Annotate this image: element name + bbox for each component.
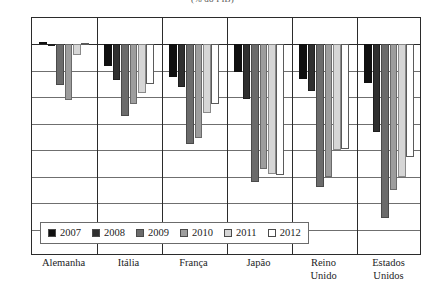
legend-label: 2008 [104, 228, 125, 239]
legend-item-2008[interactable]: 2008 [92, 228, 125, 239]
chart-legend: 200720082009201020112012 [40, 222, 309, 244]
bar-reino-unido-2008 [308, 44, 316, 90]
bar-japão-2009 [251, 44, 259, 182]
bar-estados-unidos-2012 [406, 44, 414, 156]
bar-japão-2008 [243, 44, 251, 98]
bar-alemanha-2012 [81, 43, 89, 45]
bar-japão-2012 [276, 44, 284, 175]
bar-estados-unidos-2007 [364, 44, 372, 82]
bar-reino-unido-2009 [316, 44, 324, 187]
x-label-line: Unido [291, 270, 356, 283]
bar-itália-2012 [146, 44, 154, 84]
bar-estados-unidos-2011 [398, 44, 406, 176]
x-label-line: Unidos [356, 270, 421, 283]
bar-alemanha-2010 [65, 44, 73, 100]
legend-swatch-icon [180, 229, 188, 237]
bar-frança-2007 [169, 44, 177, 77]
x-label-estados-unidos: EstadosUnidos [356, 257, 421, 282]
bar-frança-2010 [195, 44, 203, 138]
x-label-line: Alemanha [31, 257, 96, 270]
legend-swatch-icon [92, 229, 100, 237]
bar-reino-unido-2011 [333, 44, 341, 150]
bar-itália-2008 [113, 44, 121, 80]
bar-frança-2011 [203, 44, 211, 113]
x-axis-labels: AlemanhaItáliaFrançaJapãoReinoUnidoEstad… [31, 257, 421, 293]
x-label-line: Itália [96, 257, 161, 270]
legend-item-2007[interactable]: 2007 [48, 228, 81, 239]
legend-item-2009[interactable]: 2009 [136, 228, 169, 239]
legend-label: 2012 [280, 228, 301, 239]
legend-swatch-icon [48, 229, 56, 237]
bar-group-alemanha [32, 18, 97, 254]
bar-group-itália [97, 18, 162, 254]
bar-itália-2009 [121, 44, 129, 115]
bar-estados-unidos-2008 [373, 44, 381, 131]
bar-reino-unido-2012 [341, 44, 349, 148]
bar-estados-unidos-2009 [381, 44, 389, 217]
x-label-line: França [161, 257, 226, 270]
bar-estados-unidos-2010 [390, 44, 398, 189]
x-label-line: Japão [226, 257, 291, 270]
legend-item-2011[interactable]: 2011 [224, 228, 257, 239]
bar-group-frança [162, 18, 227, 254]
bar-reino-unido-2010 [325, 44, 333, 176]
bar-group-reino-unido [292, 18, 357, 254]
bar-itália-2011 [138, 44, 146, 93]
bar-frança-2012 [211, 44, 219, 104]
bar-alemanha-2009 [56, 44, 64, 85]
bar-alemanha-2011 [73, 44, 81, 55]
bar-frança-2008 [178, 44, 186, 86]
legend-label: 2010 [192, 228, 213, 239]
bar-itália-2010 [130, 44, 138, 104]
legend-label: 2007 [60, 228, 81, 239]
bar-alemanha-2008 [48, 44, 56, 46]
x-label-line: Reino [291, 257, 356, 270]
bar-group-japão [227, 18, 292, 254]
bar-japão-2007 [234, 44, 242, 72]
bar-group-estados-unidos [357, 18, 422, 254]
x-label-itália: Itália [96, 257, 161, 270]
chart-title: (% do PIB) [0, 0, 425, 4]
bar-japão-2010 [260, 44, 268, 168]
bar-reino-unido-2007 [299, 44, 307, 78]
x-label-frança: França [161, 257, 226, 270]
legend-swatch-icon [136, 229, 144, 237]
x-label-reino-unido: ReinoUnido [291, 257, 356, 282]
plot-area [31, 17, 421, 255]
x-label-alemanha: Alemanha [31, 257, 96, 270]
bar-japão-2011 [268, 44, 276, 174]
legend-label: 2011 [236, 228, 257, 239]
bar-frança-2009 [186, 44, 194, 143]
legend-label: 2009 [148, 228, 169, 239]
legend-item-2010[interactable]: 2010 [180, 228, 213, 239]
x-label-japão: Japão [226, 257, 291, 270]
legend-item-2012[interactable]: 2012 [268, 228, 301, 239]
bar-itália-2007 [104, 44, 112, 65]
legend-swatch-icon [224, 229, 232, 237]
x-label-line: Estados [356, 257, 421, 270]
bar-alemanha-2007 [39, 42, 47, 45]
legend-swatch-icon [268, 229, 276, 237]
chart-figure: (% do PIB) 20-2-4-6-8-10-12-14-16 Aleman… [0, 0, 425, 294]
